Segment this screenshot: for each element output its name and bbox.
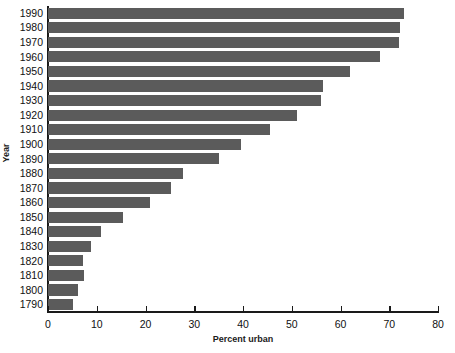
y-tick-label-1950: 1950 <box>4 65 43 77</box>
x-tick-mark-70 <box>389 306 390 312</box>
x-tick-mark-30 <box>194 306 195 312</box>
y-tick-label-1790: 1790 <box>4 298 43 310</box>
y-tick-label-1930: 1930 <box>4 94 43 106</box>
x-tick-mark-50 <box>292 306 293 312</box>
x-tick-mark-10 <box>97 306 98 312</box>
y-tick-label-1910: 1910 <box>4 123 43 135</box>
x-tick-label-10: 10 <box>82 318 112 330</box>
x-tick-mark-80 <box>438 306 439 312</box>
x-tick-mark-60 <box>341 306 342 312</box>
y-tick-label-1900: 1900 <box>4 138 43 150</box>
y-tick-label-1970: 1970 <box>4 36 43 48</box>
x-tick-label-0: 0 <box>33 318 63 330</box>
x-tick-label-80: 80 <box>423 318 453 330</box>
x-tick-label-30: 30 <box>179 318 209 330</box>
y-tick-label-1810: 1810 <box>4 269 43 281</box>
y-axis-tick-labels: 1990198019701960195019401930192019101900… <box>0 0 455 353</box>
y-tick-label-1920: 1920 <box>4 109 43 121</box>
y-tick-label-1880: 1880 <box>4 167 43 179</box>
x-tick-mark-40 <box>243 306 244 312</box>
y-tick-label-1890: 1890 <box>4 153 43 165</box>
x-tick-label-70: 70 <box>374 318 404 330</box>
y-tick-label-1850: 1850 <box>4 211 43 223</box>
x-tick-mark-0 <box>48 306 49 312</box>
y-tick-label-1820: 1820 <box>4 255 43 267</box>
x-tick-mark-20 <box>146 306 147 312</box>
y-tick-label-1800: 1800 <box>4 284 43 296</box>
x-tick-label-20: 20 <box>131 318 161 330</box>
y-tick-label-1990: 1990 <box>4 7 43 19</box>
x-axis-title: Percent urban <box>48 334 438 344</box>
y-tick-label-1860: 1860 <box>4 196 43 208</box>
y-tick-label-1940: 1940 <box>4 80 43 92</box>
x-tick-label-40: 40 <box>228 318 258 330</box>
y-tick-label-1960: 1960 <box>4 51 43 63</box>
x-tick-label-50: 50 <box>277 318 307 330</box>
bar-chart: Year 19901980197019601950194019301920191… <box>0 0 455 353</box>
x-tick-label-60: 60 <box>326 318 356 330</box>
y-tick-label-1980: 1980 <box>4 21 43 33</box>
y-tick-label-1870: 1870 <box>4 182 43 194</box>
y-tick-label-1840: 1840 <box>4 225 43 237</box>
y-tick-label-1830: 1830 <box>4 240 43 252</box>
